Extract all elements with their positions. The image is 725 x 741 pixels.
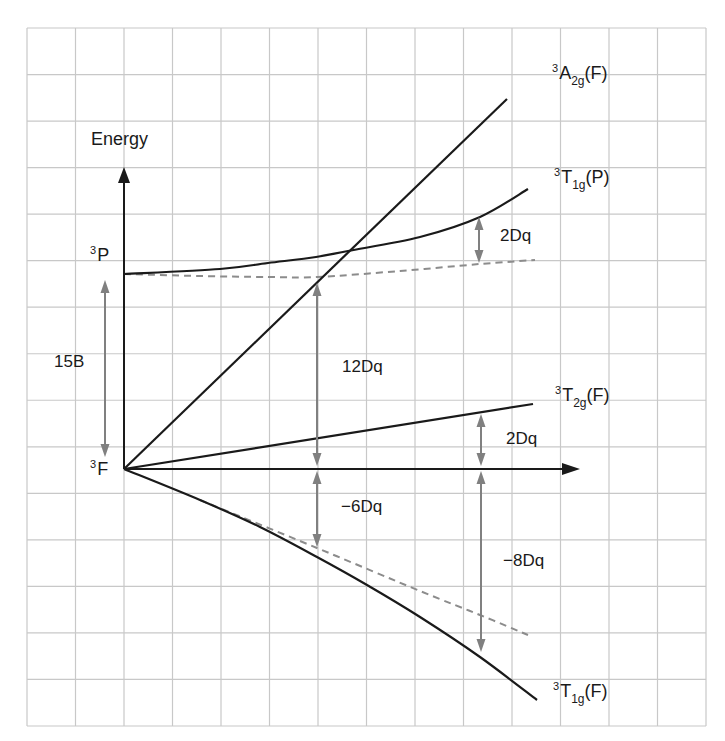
curve-3T2g-F (124, 404, 533, 469)
symmetry-subscript: 1g (572, 178, 585, 192)
spin-multiplicity: 3 (90, 458, 96, 470)
spin-multiplicity: 3 (553, 680, 559, 692)
state-label-3T1g-F: 3T1g(F) (553, 682, 607, 700)
y-axis-label: Energy (91, 130, 148, 148)
arrowhead-up-icon (477, 414, 486, 427)
field-strength-axis-arrowhead-icon (562, 463, 580, 475)
free-ion-term-3P: 3P (90, 246, 109, 264)
arrowhead-down-icon (313, 534, 322, 547)
state-label-3T2g-F: 3T2g(F) (555, 386, 609, 404)
spin-multiplicity: 3 (90, 244, 96, 256)
weak-field-dashed-lines (124, 260, 535, 635)
term-symbol: P (97, 245, 109, 265)
gap-label-2Dq-lower: 2Dq (506, 430, 537, 447)
parent-term: (F) (584, 681, 607, 701)
curve-3T1g-F (124, 469, 537, 700)
arrowhead-up-icon (313, 471, 322, 484)
arrowhead-down-icon (477, 639, 486, 652)
parent-term: (F) (586, 385, 609, 405)
symmetry-subscript: 2g (573, 396, 586, 410)
symmetry-letter: A (559, 63, 571, 83)
state-energy-curves (124, 99, 537, 700)
symmetry-letter: T (560, 681, 571, 701)
arrowhead-down-icon (477, 453, 486, 466)
weak-field-line-3T1g-F (200, 500, 528, 635)
weak-field-line-3T1g-P (124, 260, 535, 277)
gap-label-15B: 15B (54, 353, 84, 370)
symmetry-letter: T (562, 385, 573, 405)
energy-axis-arrowhead-icon (118, 167, 130, 183)
state-label-3A2g-F: 3A2g(F) (552, 64, 607, 82)
symmetry-subscript: 2g (571, 74, 584, 88)
parent-term: (F) (585, 63, 608, 83)
spin-multiplicity: 3 (552, 62, 558, 74)
arrowhead-up-icon (477, 471, 486, 484)
symmetry-subscript: 1g (571, 692, 584, 706)
curve-3A2g-F (124, 99, 507, 469)
gap-label-minus-6Dq: −6Dq (341, 498, 382, 515)
arrowhead-down-icon (313, 453, 322, 466)
parent-term: (P) (585, 167, 609, 187)
arrowhead-up-icon (101, 280, 110, 293)
gap-label-minus-8Dq: −8Dq (503, 552, 544, 569)
state-label-3T1g-P: 3T1g(P) (554, 168, 609, 186)
spin-multiplicity: 3 (554, 166, 560, 178)
term-symbol: F (97, 459, 108, 479)
symmetry-letter: T (561, 167, 572, 187)
spin-multiplicity: 3 (555, 384, 561, 396)
arrowhead-down-icon (101, 444, 110, 457)
gap-label-2Dq-upper: 2Dq (500, 227, 531, 244)
free-ion-term-3F: 3F (90, 460, 108, 478)
gap-label-12Dq: 12Dq (342, 358, 383, 375)
